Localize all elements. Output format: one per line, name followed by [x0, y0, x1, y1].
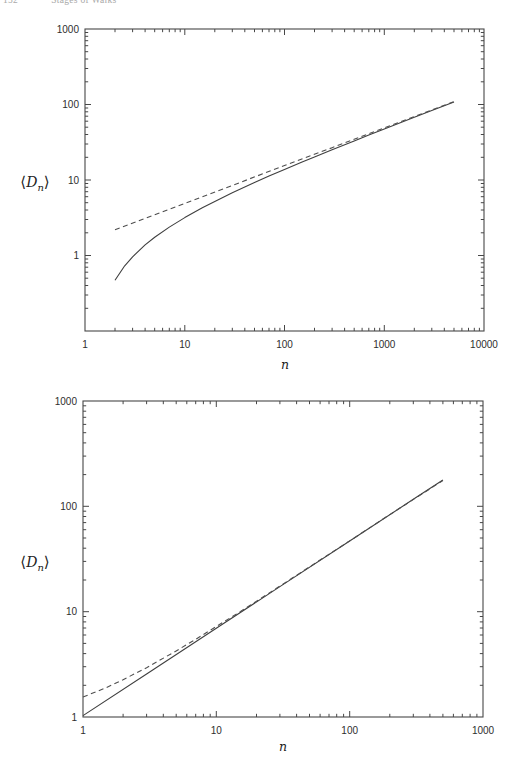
x-tick-label: 1: [82, 339, 88, 350]
figure-canvas: 1101001000100001000100101 11010010001000…: [0, 0, 509, 757]
sqrt-asymptote-dashed-line: [115, 102, 454, 230]
top-chart: 1101001000100001000100101: [57, 24, 499, 351]
x-tick-label: 100: [341, 725, 358, 736]
x-axis-label-bottom-chart: n: [273, 739, 293, 754]
x-tick-label: 10: [211, 725, 223, 736]
y-tick-label: 100: [62, 99, 79, 110]
right-angle-bracket: ⟩: [44, 553, 50, 571]
y-tick-label: 10: [68, 175, 80, 186]
axis-ticks: [83, 401, 483, 717]
y-axis-label-bottom-chart: ⟨Dn⟩: [14, 553, 56, 573]
y-tick-label: 1000: [55, 396, 78, 407]
mean-displacement-solid-curve: [115, 102, 454, 280]
x-tick-label: 1000: [373, 339, 396, 350]
bottom-chart: 11010010001000100101: [55, 396, 495, 737]
mean-displacement-solid-line: [83, 480, 443, 716]
plot-frame: [83, 401, 483, 717]
asymptote-dashed-curve: [83, 481, 443, 698]
x-tick-label: 100: [276, 339, 293, 350]
y-tick-label: 1: [71, 712, 77, 723]
y-axis-label-top-chart: ⟨Dn⟩: [14, 173, 56, 193]
x-tick-label: 10: [179, 339, 191, 350]
ylabel-letter: D: [26, 174, 37, 190]
x-axis-label-top-chart: n: [275, 357, 295, 372]
y-tick-label: 1: [73, 250, 79, 261]
x-tick-label: 1000: [472, 725, 495, 736]
y-tick-label: 10: [66, 606, 78, 617]
y-tick-label: 100: [60, 501, 77, 512]
ylabel-letter: D: [26, 554, 37, 570]
x-tick-label: 10000: [470, 339, 498, 350]
page: { "header": { "page_number": "152", "tit…: [0, 0, 509, 757]
right-angle-bracket: ⟩: [44, 173, 50, 191]
y-tick-label: 1000: [57, 24, 80, 35]
x-tick-label: 1: [80, 725, 86, 736]
axis-ticks: [85, 29, 484, 331]
plot-frame: [85, 29, 484, 331]
